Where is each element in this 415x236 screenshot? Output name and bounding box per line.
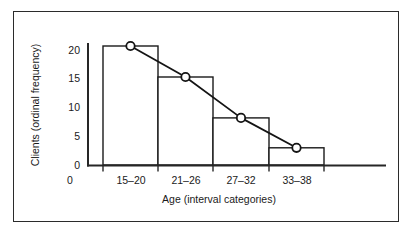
data-point-15-20	[126, 42, 134, 50]
x-axis-title: Age (interval categories)	[162, 193, 276, 205]
y-tick-label-15: 15	[68, 72, 80, 84]
data-point-27-32	[237, 114, 245, 122]
y-axis-title: Clients (ordinal frequency)	[29, 44, 41, 167]
bar-15-20	[103, 46, 158, 165]
x-tick-label-27-32: 27–32	[226, 174, 255, 186]
figure-root: 20 15 10 5 0 0 15–20 21–26 27–32 33–38 A…	[0, 0, 415, 236]
x-tick-label-15-20: 15–20	[116, 174, 145, 186]
y-tick-label-0: 0	[74, 159, 80, 171]
bars-group	[103, 46, 324, 165]
x-tick-label-origin: 0	[67, 174, 73, 186]
x-tick-label-21-26: 21–26	[171, 174, 200, 186]
data-point-21-26	[181, 73, 189, 81]
y-tick-label-20: 20	[68, 44, 80, 56]
y-tick-label-5: 5	[74, 130, 80, 142]
data-point-33-38	[292, 144, 300, 152]
x-tick-label-33-38: 33–38	[282, 174, 311, 186]
y-tick-label-10: 10	[68, 101, 80, 113]
x-tick-labels: 0 15–20 21–26 27–32 33–38	[67, 174, 312, 186]
y-tick-labels: 20 15 10 5 0	[68, 44, 80, 171]
bar-27-32	[213, 118, 269, 165]
histogram-chart: 20 15 10 5 0 0 15–20 21–26 27–32 33–38 A…	[0, 0, 415, 236]
